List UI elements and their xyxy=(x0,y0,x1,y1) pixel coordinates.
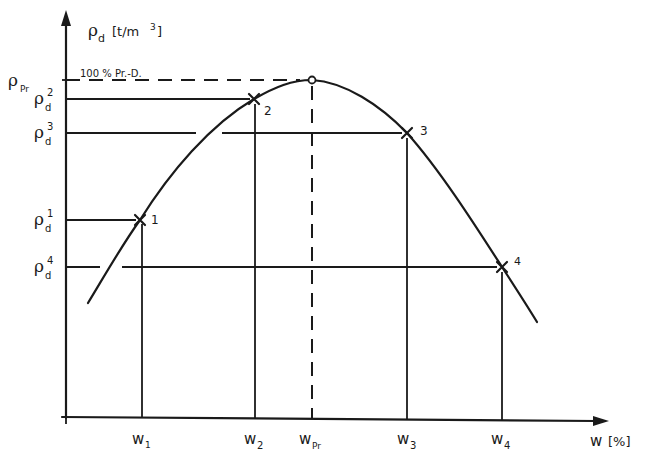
svg-text:2: 2 xyxy=(264,104,272,118)
point-1: 1 xyxy=(135,213,159,227)
horizontal-guides xyxy=(66,99,497,267)
y-axis xyxy=(61,10,71,418)
cross-marker-icon xyxy=(402,128,412,138)
x-tick-w1: w 1 xyxy=(132,430,151,450)
cross-marker-icon xyxy=(497,262,507,272)
y-axis-label: ρ d [t/m 3 ] xyxy=(88,20,162,45)
y-tick-rho-pr: ρ Pr xyxy=(8,70,29,94)
cross-marker-icon xyxy=(135,215,145,225)
proctor-diagram: ρ d [t/m 3 ] w [%] 100 % Pr.-D. 1 xyxy=(0,0,671,464)
svg-text:4: 4 xyxy=(514,255,521,268)
svg-text:]: ] xyxy=(157,24,162,39)
svg-text:1: 1 xyxy=(151,213,159,227)
svg-text:3: 3 xyxy=(47,121,53,132)
y-axis-arrow-icon xyxy=(61,10,71,26)
svg-text:3: 3 xyxy=(150,22,156,32)
svg-text:d: d xyxy=(45,270,51,281)
svg-text:[t/m: [t/m xyxy=(112,24,139,39)
svg-text:Pr: Pr xyxy=(20,84,29,94)
proctor-optimum-point xyxy=(309,77,316,84)
svg-text:w: w xyxy=(397,430,409,448)
svg-text:3: 3 xyxy=(410,440,416,451)
svg-text:w: w xyxy=(244,430,256,448)
svg-text:1: 1 xyxy=(145,440,151,450)
x-tick-wpr: w Pr xyxy=(299,430,321,451)
svg-text:ρ: ρ xyxy=(34,88,44,108)
x-tick-w3: w 3 xyxy=(397,430,416,451)
svg-text:ρ: ρ xyxy=(34,122,44,142)
svg-text:Pr: Pr xyxy=(312,441,321,451)
y-tick-rho-d2: ρ 2 d xyxy=(34,87,53,113)
svg-text:4: 4 xyxy=(47,255,53,266)
svg-text:ρ: ρ xyxy=(88,20,98,40)
point-3: 3 xyxy=(402,124,428,138)
y-tick-rho-d4: ρ 4 d xyxy=(34,255,53,281)
x-axis-arrow-icon xyxy=(593,416,609,426)
y-tick-rho-d1: ρ 1 d xyxy=(34,208,53,234)
svg-text:ρ: ρ xyxy=(34,256,44,276)
svg-text:2: 2 xyxy=(47,87,53,98)
x-tick-w4: w 4 xyxy=(491,430,510,451)
svg-text:d: d xyxy=(45,136,51,147)
svg-text:ρ: ρ xyxy=(8,70,18,90)
svg-text:4: 4 xyxy=(504,440,510,451)
svg-text:[%]: [%] xyxy=(608,434,631,449)
svg-text:3: 3 xyxy=(420,124,428,138)
open-circle-marker-icon xyxy=(309,77,316,84)
x-axis-label: w [%] xyxy=(590,432,631,450)
svg-text:1: 1 xyxy=(47,208,53,219)
svg-text:w: w xyxy=(299,430,311,448)
x-tick-w2: w 2 xyxy=(244,430,263,451)
x-axis xyxy=(62,412,609,426)
cross-marker-icon xyxy=(249,94,259,104)
svg-text:w: w xyxy=(132,430,144,448)
vertical-guides xyxy=(142,104,502,421)
svg-text:w: w xyxy=(590,432,602,450)
svg-text:w: w xyxy=(491,430,503,448)
svg-text:ρ: ρ xyxy=(34,209,44,229)
svg-text:d: d xyxy=(45,223,51,234)
y-tick-rho-d3: ρ 3 d xyxy=(34,121,53,147)
reference-label-100-percent: 100 % Pr.-D. xyxy=(80,68,142,79)
proctor-optimum-guides xyxy=(62,80,312,419)
svg-text:2: 2 xyxy=(257,440,263,451)
svg-text:d: d xyxy=(45,102,51,113)
point-2: 2 xyxy=(249,94,272,118)
svg-text:d: d xyxy=(98,32,105,45)
